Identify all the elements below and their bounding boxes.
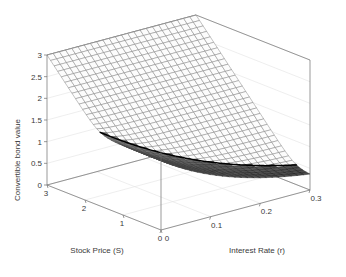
z-tick-label: 0 [38, 181, 43, 190]
z-tick-label: 1.5 [31, 116, 43, 125]
y-axis-line [161, 190, 310, 230]
figure-3d-surface-plot: 00.511.522.53321000.10.20.3 Convertible … [0, 0, 346, 277]
x-axis-title: Stock Price (S) [70, 246, 124, 255]
surface-mesh [47, 15, 310, 178]
r-tick-label: 0 [165, 234, 170, 243]
z-tick-label: 0.5 [31, 159, 43, 168]
s-tick-label: 2 [82, 204, 87, 213]
z-tick-label: 2.5 [31, 73, 43, 82]
plot-canvas: 00.511.522.53321000.10.20.3 Convertible … [0, 0, 346, 277]
y-axis-title: Interest Rate (r) [229, 246, 285, 255]
z-axis-title: Convertible bond value [13, 119, 22, 201]
s-tick-label: 3 [44, 189, 49, 198]
floor-grid-r [97, 172, 211, 217]
floor-grid-s [123, 175, 272, 215]
r-tick-label: 0.3 [310, 194, 322, 203]
s-tick-label: 1 [120, 219, 125, 228]
r-tick [160, 230, 161, 233]
x-axis-line [47, 185, 161, 230]
z-tick-label: 3 [38, 51, 43, 60]
r-tick-label: 0.1 [211, 221, 223, 230]
r-tick-label: 0.2 [261, 207, 273, 216]
z-tick-label: 2 [38, 94, 43, 103]
s-tick-label: 0 [158, 234, 163, 243]
z-tick-label: 1 [38, 138, 43, 147]
